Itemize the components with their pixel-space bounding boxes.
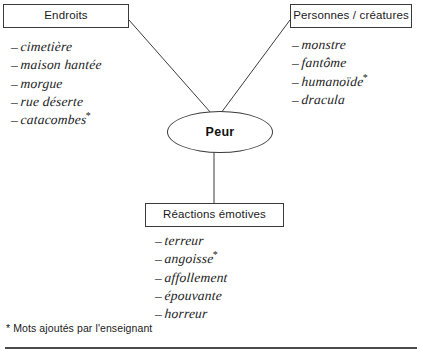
word-list-item: –horreur — [155, 305, 227, 323]
word-list-item: –affollement — [155, 269, 227, 287]
word-list-item: –fantôme — [292, 54, 368, 72]
category-label-reactions: Réactions émotives — [163, 209, 266, 221]
word-list-reactions: –terreur–angoisse*–affollement–épouvante… — [155, 232, 227, 323]
list-dash: – — [292, 36, 301, 54]
central-node-label: Peur — [206, 125, 235, 139]
word-term: affollement — [164, 269, 228, 287]
category-box-personnes[interactable]: Personnes / créatures — [290, 4, 412, 28]
list-dash: – — [155, 305, 164, 323]
list-dash: – — [11, 93, 20, 111]
word-term: monstre — [301, 36, 347, 54]
word-term: humanoïde — [301, 73, 364, 91]
word-term: terreur — [164, 232, 204, 250]
list-dash: – — [11, 56, 20, 74]
list-dash: – — [155, 250, 164, 268]
word-term: fantôme — [301, 54, 347, 72]
footnote-legend: * Mots ajoutés par l'enseignant — [6, 322, 152, 334]
word-list-item: –humanoïde* — [292, 73, 368, 91]
word-term: horreur — [164, 305, 208, 323]
word-list-item: –monstre — [292, 36, 368, 54]
category-box-reactions[interactable]: Réactions émotives — [145, 203, 284, 227]
category-label-personnes: Personnes / créatures — [293, 10, 409, 22]
connector-personnes-to-core — [221, 20, 290, 113]
mind-map-canvas: Endroits Personnes / créatures Peur Réac… — [0, 0, 423, 357]
word-list-item: –épouvante — [155, 287, 227, 305]
bottom-divider — [5, 347, 417, 349]
list-dash: – — [155, 269, 164, 287]
list-dash: – — [11, 38, 20, 56]
word-list-endroits: –cimetière–maison hantée–morgue–rue dése… — [11, 38, 101, 129]
word-term: angoisse — [164, 250, 214, 268]
word-list-item: –dracula — [292, 91, 368, 109]
list-dash: – — [11, 111, 20, 129]
word-list-item: –catacombes* — [11, 111, 101, 129]
connector-endroits-to-core — [129, 20, 211, 113]
list-dash: – — [11, 75, 20, 93]
word-list-personnes: –monstre–fantôme–humanoïde*–dracula — [292, 36, 368, 109]
category-label-endroits: Endroits — [44, 10, 87, 22]
word-term: épouvante — [164, 287, 223, 305]
word-list-item: –cimetière — [11, 38, 101, 56]
word-list-item: –rue déserte — [11, 93, 101, 111]
word-term: cimetière — [20, 38, 73, 56]
word-term: morgue — [20, 75, 63, 93]
word-list-item: –morgue — [11, 75, 101, 93]
word-term: catacombes — [20, 111, 87, 129]
list-dash: – — [155, 232, 164, 250]
word-term: maison hantée — [20, 56, 102, 74]
central-node-peur[interactable]: Peur — [167, 111, 273, 153]
word-term: rue déserte — [20, 93, 84, 111]
word-list-item: –maison hantée — [11, 56, 101, 74]
list-dash: – — [155, 287, 164, 305]
word-list-item: –angoisse* — [155, 250, 227, 268]
list-dash: – — [292, 73, 301, 91]
word-list-item: –terreur — [155, 232, 227, 250]
category-box-endroits[interactable]: Endroits — [3, 4, 129, 28]
list-dash: – — [292, 91, 301, 109]
word-term: dracula — [301, 91, 346, 109]
list-dash: – — [292, 54, 301, 72]
